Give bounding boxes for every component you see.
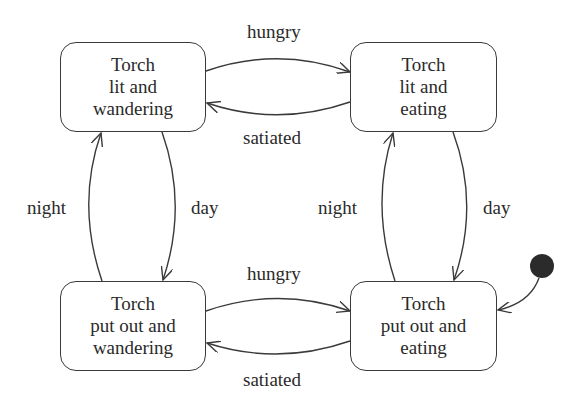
arrow-left-night <box>89 133 102 281</box>
arrow-top-satiated <box>207 102 350 115</box>
arrow-right-night <box>382 133 395 281</box>
label-left-night: night <box>27 198 66 218</box>
state-out-eating: Torch put out and eating <box>350 281 497 371</box>
state-line: Torch <box>111 54 155 76</box>
state-line: wandering <box>93 98 173 120</box>
label-bottom-hungry: hungry <box>247 264 301 284</box>
arrow-bottom-hungry <box>206 299 350 312</box>
arrow-top-hungry <box>206 59 350 72</box>
label-left-day: day <box>191 198 218 218</box>
arrow-bottom-satiated <box>207 341 350 354</box>
label-top-hungry: hungry <box>247 22 301 42</box>
state-line: Torch <box>111 293 155 315</box>
state-line: put out and <box>381 315 467 337</box>
arrow-right-day <box>453 132 467 280</box>
state-diagram: Torch lit and wandering Torch lit and ea… <box>0 0 584 407</box>
label-right-day: day <box>483 198 510 218</box>
state-line: Torch <box>401 293 445 315</box>
state-line: eating <box>400 337 446 359</box>
arrow-initial <box>498 278 539 310</box>
label-top-satiated: satiated <box>243 128 301 148</box>
state-line: lit and <box>109 76 157 98</box>
label-right-night: night <box>318 198 357 218</box>
state-line: put out and <box>90 315 176 337</box>
arrow-left-day <box>162 132 175 280</box>
label-bottom-satiated: satiated <box>243 370 301 390</box>
state-line: eating <box>400 98 446 120</box>
state-line: Torch <box>401 54 445 76</box>
state-out-wandering: Torch put out and wandering <box>60 281 206 371</box>
initial-state-dot <box>530 254 554 278</box>
state-lit-wandering: Torch lit and wandering <box>60 42 206 132</box>
state-line: wandering <box>93 337 173 359</box>
state-lit-eating: Torch lit and eating <box>350 42 497 132</box>
state-line: lit and <box>399 76 447 98</box>
